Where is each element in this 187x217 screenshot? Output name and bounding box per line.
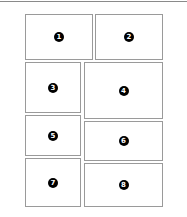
panel-7: 7 bbox=[25, 158, 81, 207]
panel-number-badge: 3 bbox=[48, 83, 58, 93]
panel-number-badge: 8 bbox=[119, 180, 129, 190]
panel-6: 6 bbox=[84, 121, 163, 161]
panel-5: 5 bbox=[25, 115, 81, 156]
panel-number-badge: 1 bbox=[54, 32, 64, 42]
panel-number-badge: 2 bbox=[124, 32, 134, 42]
panel-8: 8 bbox=[84, 163, 163, 207]
panel-number-badge: 6 bbox=[119, 136, 129, 146]
panel-number-badge: 4 bbox=[119, 86, 129, 96]
panel-number-badge: 5 bbox=[48, 131, 58, 141]
panel-number-badge: 7 bbox=[48, 178, 58, 188]
top-rule bbox=[0, 1, 187, 2]
panel-1: 1 bbox=[25, 14, 93, 60]
panel-4: 4 bbox=[84, 62, 163, 119]
panel-3: 3 bbox=[25, 62, 81, 113]
panel-2: 2 bbox=[95, 14, 163, 60]
